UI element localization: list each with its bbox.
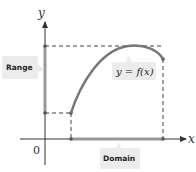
range-bottom-dot [43,111,47,115]
range-tag: Range [2,56,44,79]
origin-label: 0 [33,144,40,157]
domain-tag: Domain [100,142,140,169]
dashed-guides [45,46,163,139]
range-top-dot [43,44,47,48]
domain-range-diagram: y x 0 Range y = f(x) Domain [0,0,196,172]
domain-label: Domain [103,154,135,163]
domain-left-dot [69,137,73,141]
range-label: Range [6,63,33,72]
y-axis-label: y [37,6,45,20]
x-axis-label: x [188,132,195,146]
function-label: y = f(x) [115,66,154,77]
function-tag: y = f(x) [112,55,156,80]
domain-right-dot [161,137,165,141]
